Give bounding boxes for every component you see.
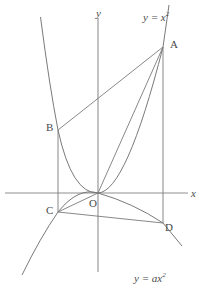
figure-canvas	[0, 0, 214, 299]
y-axis-label: y	[96, 8, 101, 19]
equation-upper-parabola: y = x2	[143, 11, 169, 23]
equation-upper-exponent: 2	[166, 10, 170, 18]
equation-upper-text: y = x	[143, 11, 166, 23]
x-axis-label: x	[191, 188, 196, 199]
equation-lower-text: y = ax	[134, 272, 162, 284]
point-label-d: D	[165, 222, 173, 233]
point-label-a: A	[170, 39, 178, 50]
upward-parabola-curve	[41, 5, 170, 193]
point-label-b: B	[46, 122, 53, 133]
origin-label: O	[89, 198, 97, 209]
equation-lower-parabola: y = ax2	[134, 272, 166, 284]
point-label-c: C	[46, 205, 53, 216]
segment-OA	[98, 47, 163, 193]
equation-lower-exponent: 2	[162, 271, 166, 279]
segment-BA	[58, 47, 163, 130]
geometry-figure: y x A B C D O y = x2 y = ax2	[0, 0, 214, 299]
